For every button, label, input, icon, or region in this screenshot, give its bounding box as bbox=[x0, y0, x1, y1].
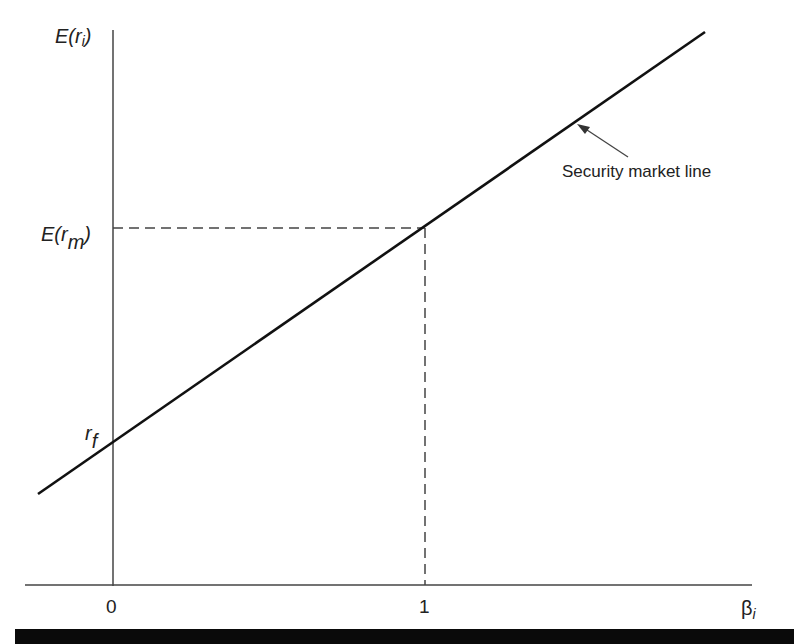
erm-label-main: E(r bbox=[41, 223, 68, 245]
annotation-arrow-icon bbox=[577, 124, 628, 157]
security-market-line bbox=[38, 32, 705, 494]
rf-label-main: r bbox=[85, 422, 92, 444]
erm-label-sub: m bbox=[68, 231, 85, 253]
sml-diagram bbox=[0, 0, 794, 644]
y-axis-label-close: ) bbox=[85, 25, 92, 47]
x-axis-label-main: β bbox=[741, 597, 753, 619]
x-axis-label: βi bbox=[741, 598, 756, 618]
rf-label-sub: f bbox=[92, 430, 98, 452]
x-tick-1: 1 bbox=[419, 597, 430, 616]
y-axis-label-main: E(r bbox=[55, 25, 82, 47]
rf-label: rf bbox=[85, 423, 97, 443]
sml-annotation-text: Security market line bbox=[562, 163, 711, 180]
bottom-bar bbox=[15, 629, 794, 644]
x-axis-label-sub: i bbox=[753, 606, 756, 622]
y-axis-label-sub: i bbox=[82, 33, 85, 49]
x-tick-0: 0 bbox=[106, 597, 117, 616]
erm-label: E(rm) bbox=[41, 224, 91, 244]
y-axis-label: E(ri) bbox=[55, 26, 91, 46]
erm-label-close: ) bbox=[84, 223, 91, 245]
